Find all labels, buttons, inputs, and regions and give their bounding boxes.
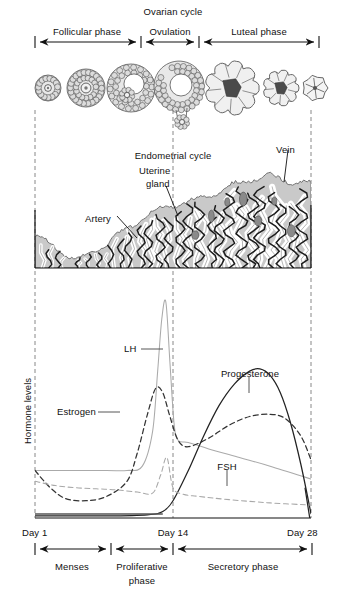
cycle-guide-lines [35, 110, 311, 518]
follicle-primary-follicle [67, 69, 105, 107]
vein [239, 192, 247, 206]
vein [225, 198, 230, 206]
ovarian-phase-arrows [35, 36, 319, 48]
figure-canvas [0, 0, 344, 595]
vein-leader [284, 150, 288, 182]
follicle-regressing-corpus-luteum [263, 70, 299, 106]
follicle-secondary-follicle [107, 64, 155, 112]
follicle-corpus-albicans [303, 75, 328, 100]
menstrual-cycle-figure: Ovarian cycle Follicular phase Ovulation… [0, 0, 344, 595]
hormone-chart [35, 300, 311, 526]
uterine-phase-arrows [35, 543, 312, 555]
follicle-corpus-luteum [206, 61, 259, 115]
hormone-curve-lh [35, 300, 311, 479]
follicle-graafian-follicle [154, 61, 205, 129]
vein [272, 197, 277, 205]
follicle-stage-row [35, 61, 328, 130]
vein [208, 210, 214, 222]
follicle-primordial-follicle [35, 75, 61, 101]
vein [254, 216, 261, 226]
vein [287, 225, 295, 237]
vein [192, 231, 199, 240]
endometrium-panel [35, 172, 311, 268]
